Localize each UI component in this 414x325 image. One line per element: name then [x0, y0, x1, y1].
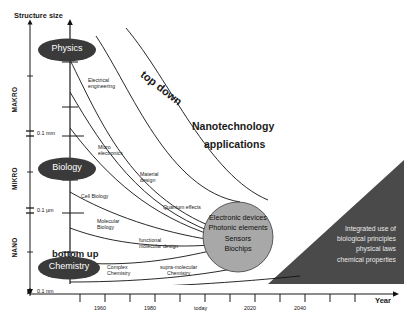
y-tick-0: 0.1 mm — [37, 130, 55, 136]
x-axis-title: Year — [375, 297, 391, 306]
x-tick-2040: 2040 — [294, 305, 306, 311]
curve-label-material-design: Material design — [140, 172, 158, 184]
curve-label-line2: engineering — [88, 83, 115, 89]
curve-label-functional-molecular-design: functional molecular design — [139, 238, 178, 250]
curve-label-line2: Biology — [97, 224, 114, 230]
ellipse-label-chemistry: Chemistry — [38, 261, 100, 271]
x-tick-2020: 2020 — [244, 305, 256, 311]
curve-label-line2: Chemistry — [107, 270, 130, 276]
y-tick-2: 0.1 nm — [37, 288, 53, 294]
curve-label-complex-chemistry: Complex Chemistry — [107, 265, 130, 277]
ellipse-label-biology: Biology — [38, 162, 96, 172]
curve-material-design — [96, 36, 240, 202]
headline-line2: applications — [204, 139, 265, 151]
circle-item-electronic-devices: Electronic devices — [184, 213, 292, 223]
curve-label-cell-biology: Cell Biology — [81, 194, 108, 200]
future-line-3: physical laws — [288, 244, 396, 254]
scale-band-nano: NANO — [11, 226, 18, 270]
curve-label-electrical-engineering: Electrical engineering — [88, 78, 115, 90]
scale-band-mikro: MIKRO — [11, 156, 18, 202]
curve-label-line2: electronics — [98, 150, 123, 156]
curve-label-line2: Chemistry — [167, 270, 190, 276]
future-line-1: Integrated use of — [288, 224, 396, 234]
curve-label-line2: design — [140, 177, 155, 183]
future-line-2: biological principles — [288, 234, 396, 244]
scale-band-makro: MAKRO — [11, 77, 18, 123]
y-axis-title: Structure size — [14, 12, 63, 20]
future-line-4: chemical properties — [288, 255, 396, 265]
x-axis — [30, 294, 396, 302]
x-tick-today: today — [194, 305, 207, 311]
curve-label-quantum-effects: Quantum effects — [163, 205, 201, 211]
ellipse-label-physics: Physics — [38, 43, 96, 53]
curve-label-molecular-biology: Molecular Biology — [97, 219, 120, 231]
y-axis-scale-bar — [26, 22, 34, 296]
curve-label-micro-electronics: Micro electronics — [98, 145, 123, 157]
convergence-circle-text: Electronic devices Photonic elements Sen… — [184, 213, 292, 255]
nanotechnology-convergence-diagram: Structure size Year MAKRO MIKRO NANO 0.1… — [0, 0, 414, 325]
discipline-ellipses — [38, 39, 100, 280]
x-tick-1980: 1980 — [144, 305, 156, 311]
circle-item-sensors: Sensors — [184, 234, 292, 244]
x-tick-1960: 1960 — [94, 305, 106, 311]
curve-supra-molecular-chemistry — [70, 276, 300, 288]
future-region-text: Integrated use of biological principles … — [288, 224, 396, 265]
y-tick-1: 0.1 µm — [37, 207, 54, 213]
headline-line1: Nanotechnology — [192, 121, 274, 133]
curve-label-line2: molecular design — [139, 243, 178, 249]
direction-bottom-up: bottom up — [52, 249, 98, 260]
circle-item-photonic-elements: Photonic elements — [184, 223, 292, 233]
circle-item-biochips: Biochips — [184, 244, 292, 254]
curve-label-supra-molecular-chemistry: supra-molecular Chemistry — [160, 265, 197, 277]
